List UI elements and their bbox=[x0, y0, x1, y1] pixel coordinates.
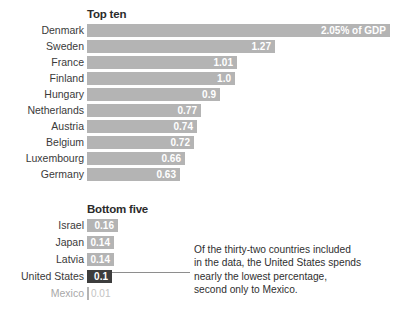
bar-value-hungary: 0.9 bbox=[202, 88, 216, 101]
bar-value-luxembourg: 0.66 bbox=[162, 152, 181, 165]
bar-netherlands: 0.77 bbox=[87, 104, 201, 117]
bar-united-states: 0.1 bbox=[87, 270, 112, 283]
bar-denmark: 2.05% of GDP bbox=[87, 24, 390, 37]
bar-value-denmark: 2.05% of GDP bbox=[321, 24, 386, 37]
annotation-line-3: nearly the lowest percentage, bbox=[194, 270, 394, 283]
table-row: France 1.01 bbox=[0, 56, 403, 69]
bar-value-mexico: 0.01 bbox=[91, 287, 110, 300]
bar-label-denmark: Denmark bbox=[0, 24, 84, 38]
bar-chart: Top ten Denmark 2.05% of GDP Sweden 1.27… bbox=[0, 0, 403, 314]
table-row: Sweden 1.27 bbox=[0, 40, 403, 53]
bar-label-hungary: Hungary bbox=[0, 88, 84, 102]
annotation-leader-line bbox=[112, 272, 190, 273]
bar-value-latvia: 0.14 bbox=[91, 253, 110, 266]
table-row: Germany 0.63 bbox=[0, 168, 403, 181]
bottom-five-title: Bottom five bbox=[87, 203, 148, 215]
bar-value-netherlands: 0.77 bbox=[178, 104, 197, 117]
bar-value-austria: 0.74 bbox=[174, 120, 193, 133]
bar-value-japan: 0.14 bbox=[91, 236, 110, 249]
bar-label-luxembourg: Luxembourg bbox=[0, 152, 84, 166]
bar-label-sweden: Sweden bbox=[0, 40, 84, 54]
bar-value-germany: 0.63 bbox=[157, 168, 176, 181]
annotation-line-2: in the data, the United States spends bbox=[194, 256, 394, 269]
bar-label-united-states: United States bbox=[0, 270, 84, 284]
table-row: Denmark 2.05% of GDP bbox=[0, 24, 403, 37]
table-row: Belgium 0.72 bbox=[0, 136, 403, 149]
top-ten-title: Top ten bbox=[87, 8, 126, 20]
bar-value-belgium: 0.72 bbox=[171, 136, 190, 149]
bar-value-finland: 1.0 bbox=[217, 72, 231, 85]
bar-finland: 1.0 bbox=[87, 72, 235, 85]
bar-label-finland: Finland bbox=[0, 72, 84, 86]
bar-label-germany: Germany bbox=[0, 168, 84, 182]
bar-label-france: France bbox=[0, 56, 84, 70]
table-row: Netherlands 0.77 bbox=[0, 104, 403, 117]
bar-austria: 0.74 bbox=[87, 120, 197, 133]
bar-sweden: 1.27 bbox=[87, 40, 275, 53]
bar-value-united-states: 0.1 bbox=[94, 270, 108, 283]
annotation-line-4: second only to Mexico. bbox=[194, 283, 394, 296]
bar-hungary: 0.9 bbox=[87, 88, 220, 101]
table-row: Luxembourg 0.66 bbox=[0, 152, 403, 165]
annotation-text: Of the thirty-two countries included in … bbox=[194, 243, 394, 297]
bar-mexico: 0.01 bbox=[87, 287, 89, 300]
bar-japan: 0.14 bbox=[87, 236, 114, 249]
table-row: Austria 0.74 bbox=[0, 120, 403, 133]
bar-value-france: 1.01 bbox=[214, 56, 233, 69]
bar-germany: 0.63 bbox=[87, 168, 180, 181]
bar-label-netherlands: Netherlands bbox=[0, 104, 84, 118]
bar-france: 1.01 bbox=[87, 56, 237, 69]
bar-label-latvia: Latvia bbox=[0, 253, 84, 267]
bar-latvia: 0.14 bbox=[87, 253, 114, 266]
bar-label-mexico: Mexico bbox=[0, 287, 84, 301]
table-row: Finland 1.0 bbox=[0, 72, 403, 85]
bar-luxembourg: 0.66 bbox=[87, 152, 185, 165]
bar-label-belgium: Belgium bbox=[0, 136, 84, 150]
table-row: Hungary 0.9 bbox=[0, 88, 403, 101]
bar-label-israel: Israel bbox=[0, 219, 84, 233]
annotation-line-1: Of the thirty-two countries included bbox=[194, 243, 394, 256]
bar-belgium: 0.72 bbox=[87, 136, 194, 149]
bar-label-japan: Japan bbox=[0, 236, 84, 250]
bar-value-israel: 0.16 bbox=[95, 219, 114, 232]
bar-label-austria: Austria bbox=[0, 120, 84, 134]
table-row: Israel 0.16 bbox=[0, 219, 403, 232]
bar-value-sweden: 1.27 bbox=[252, 40, 271, 53]
bar-israel: 0.16 bbox=[87, 219, 118, 232]
